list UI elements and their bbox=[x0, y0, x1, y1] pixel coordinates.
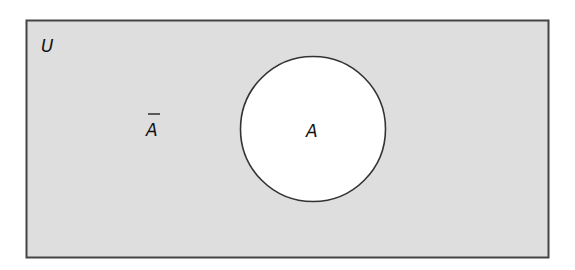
venn-diagram: U A A bbox=[0, 0, 575, 270]
universe-label: U bbox=[41, 36, 54, 56]
set-a-label: A bbox=[305, 121, 318, 141]
complement-label-text: A bbox=[145, 120, 158, 140]
